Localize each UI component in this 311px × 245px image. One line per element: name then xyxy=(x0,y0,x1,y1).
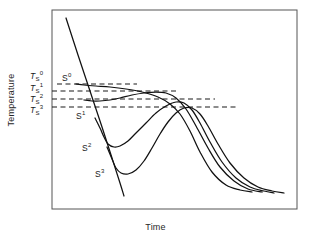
curve-label-2: S2 xyxy=(82,142,91,153)
plot-canvas xyxy=(0,0,311,245)
threshold-label-3: TS3 xyxy=(30,104,43,116)
y-axis-label: Temperature xyxy=(6,62,16,138)
x-axis-label: Time xyxy=(0,222,311,232)
curve-label-3: S3 xyxy=(95,168,104,179)
curve-label-0: S0 xyxy=(62,72,71,83)
chart-figure: Temperature Time TS0TS1TS2TS3 S0S1S2S3 xyxy=(0,0,311,245)
chart-background xyxy=(0,0,311,245)
curve-label-1: S1 xyxy=(76,110,85,121)
threshold-label-0: TS0 xyxy=(30,70,43,82)
